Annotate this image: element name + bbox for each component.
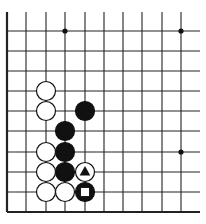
black-stone-icon [56,163,75,182]
white-stone-icon [37,163,56,182]
go-board[interactable] [0,0,206,224]
white-stone[interactable] [76,163,95,182]
black-stone[interactable] [56,163,75,182]
white-stone[interactable] [37,82,56,101]
white-stone[interactable] [56,183,75,202]
black-stone[interactable] [56,122,75,141]
white-stone-icon [56,183,75,202]
white-stone[interactable] [37,143,56,162]
star-point-icon [62,28,67,33]
white-stone-icon [37,143,56,162]
white-stone-icon [37,183,56,202]
white-stone[interactable] [37,163,56,182]
black-stone[interactable] [76,183,95,202]
square-marker-icon [81,188,89,196]
black-stone-icon [56,122,75,141]
black-stone-icon [76,102,95,121]
black-stone[interactable] [76,102,95,121]
white-stone-icon [37,82,56,101]
star-point-icon [178,28,183,33]
white-stone-icon [37,102,56,121]
star-point-icon [178,149,183,154]
white-stone[interactable] [37,183,56,202]
white-stone[interactable] [37,102,56,121]
black-stone-icon [56,143,75,162]
black-stone[interactable] [56,143,75,162]
